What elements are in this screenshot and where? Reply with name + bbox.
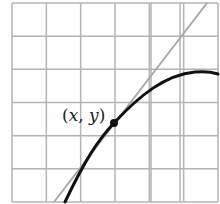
point-label: (x, y) [62,107,105,124]
tangent-line-diagram [0,0,220,204]
point-of-tangency [110,119,118,127]
label-open-paren: ( [62,105,69,125]
label-close-paren: ) [99,105,106,125]
label-x-var: x [69,105,79,125]
grid [12,3,218,202]
label-separator: , [78,105,89,125]
label-y-var: y [89,105,99,125]
function-curve [65,72,218,202]
